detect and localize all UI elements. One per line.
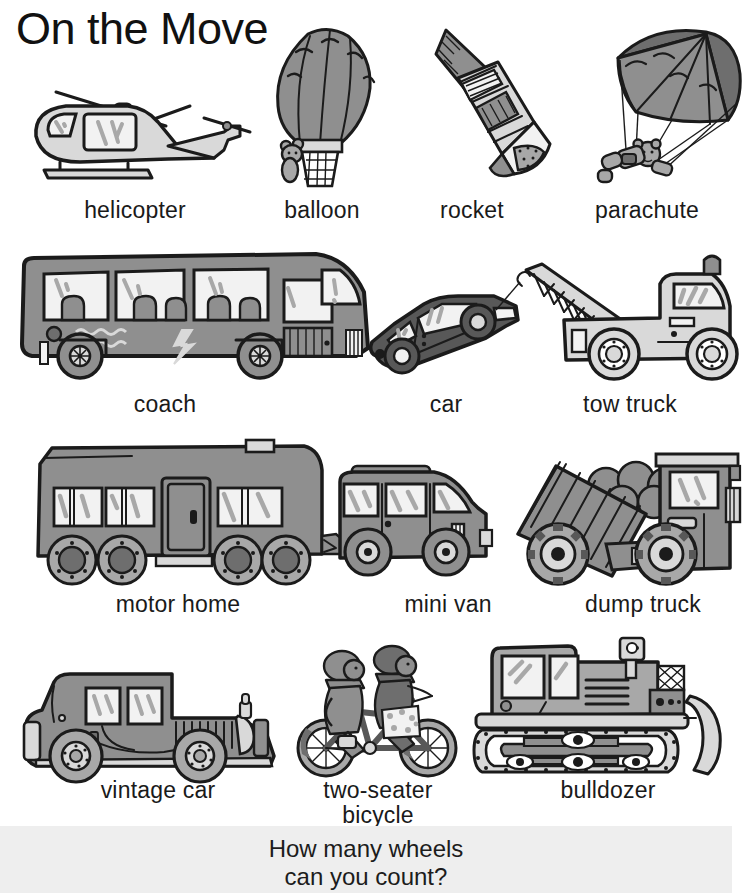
illustration-car <box>366 282 526 382</box>
label-car: car <box>386 392 506 417</box>
label-parachute: parachute <box>562 198 732 223</box>
question-band: How many wheels can you count? <box>0 826 732 893</box>
illustration-motor-home <box>14 436 354 586</box>
label-bulldozer: bulldozer <box>508 778 708 803</box>
illustration-parachute <box>560 20 732 190</box>
question-line-1: How many wheels <box>0 835 732 863</box>
illustration-tow-truck <box>508 250 744 382</box>
label-mini-van: mini van <box>358 592 538 617</box>
label-two-seater-bicycle: two-seater bicycle <box>298 778 458 828</box>
question-text: How many wheels can you count? <box>0 835 732 892</box>
illustration-bulldozer <box>468 634 732 782</box>
illustration-helicopter <box>18 66 248 184</box>
label-rocket: rocket <box>392 198 552 223</box>
label-helicopter: helicopter <box>30 198 240 223</box>
label-motor-home: motor home <box>48 592 308 617</box>
illustration-rocket <box>402 24 562 192</box>
label-tow-truck: tow truck <box>540 392 720 417</box>
illustration-vintage-car <box>14 660 284 782</box>
illustration-coach <box>16 248 376 382</box>
page-title: On the Move <box>16 6 268 51</box>
question-line-2: can you count? <box>0 863 732 891</box>
label-dump-truck: dump truck <box>548 592 738 617</box>
illustration-balloon <box>252 22 392 190</box>
label-coach: coach <box>40 392 290 417</box>
illustration-mini-van <box>330 452 500 586</box>
illustration-two-seater-bicycle <box>286 640 466 782</box>
illustration-dump-truck <box>500 440 740 588</box>
label-vintage-car: vintage car <box>48 778 268 803</box>
